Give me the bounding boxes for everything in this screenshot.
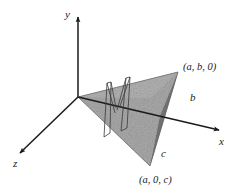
y-axis-label: y [65,9,70,20]
slice-apex-left [107,82,111,83]
segment-label-c: c [161,148,166,159]
x-axis-label: x [219,136,224,147]
axis-lines-back [20,17,78,153]
z-axis-line [20,97,78,153]
slice-base-left [104,133,110,137]
point-label-a-0-c: (a, 0, c) [139,175,172,186]
tetrahedron-diagram [0,0,245,196]
z-axis-label: z [13,158,17,169]
segment-label-b: b [190,92,196,103]
point-label-a-b-0: (a, b, 0) [183,62,216,73]
